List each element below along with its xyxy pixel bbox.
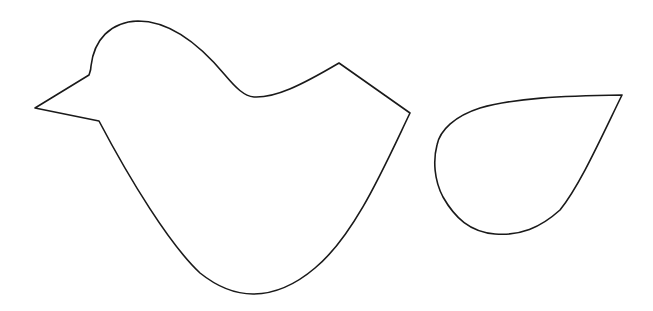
bird-body-outline	[35, 21, 410, 294]
wing-outline	[435, 95, 622, 234]
drawing-canvas	[0, 0, 653, 311]
